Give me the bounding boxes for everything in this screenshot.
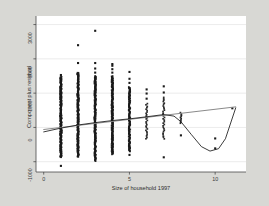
cprplot-figure: Component plus residual Size of househol… — [0, 0, 269, 206]
x-tick-label: 10 — [205, 176, 225, 182]
lowess-curve — [44, 108, 236, 151]
x-tick-label: 5 — [119, 176, 139, 182]
y-tick-label: 3000 — [27, 25, 33, 51]
y-tick-label: 2000 — [27, 59, 33, 85]
x-axis-title: Size of household 1997 — [36, 185, 246, 191]
scatter-points — [59, 30, 233, 167]
y-tick-label: -1000 — [27, 162, 33, 188]
x-tick-label: 0 — [34, 176, 54, 182]
y-tick-label: 0 — [27, 127, 33, 153]
y-tick-label: 1000 — [27, 93, 33, 119]
